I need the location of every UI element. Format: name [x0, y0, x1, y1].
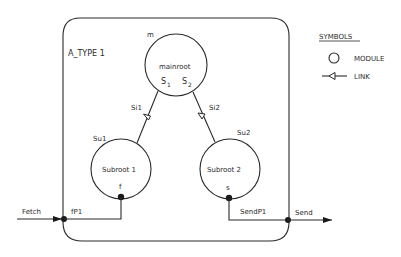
module-mainroot[interactable]: m mainroot S 1 S 2	[145, 31, 207, 96]
module-tag: Su2	[237, 129, 250, 137]
port-label: s	[226, 184, 230, 192]
module-tag: Su1	[93, 135, 106, 143]
module-name: mainroot	[159, 63, 191, 71]
module-symbol-icon	[329, 53, 339, 63]
port-s1: S	[161, 77, 166, 86]
legend-item-label: MODULE	[354, 55, 384, 63]
module-subroot-2[interactable]: Su2 Subroot 2 s	[200, 129, 260, 201]
port-s2-sub: 2	[188, 81, 192, 88]
module-subroot-1[interactable]: Su1 Subroot 1 f	[91, 135, 151, 200]
input-label: Fetch	[22, 208, 41, 216]
legend-item-label: LINK	[354, 73, 370, 81]
module-name: Subroot 1	[102, 166, 136, 174]
module-tag: m	[147, 31, 154, 39]
port-s1-sub: 1	[167, 81, 171, 88]
arrow-right-icon	[323, 217, 332, 223]
arrow-right-icon	[53, 216, 62, 222]
link-si2[interactable]: Si2	[193, 92, 220, 142]
output-label: Send	[295, 209, 313, 217]
legend-title: SYMBOLS	[319, 33, 353, 41]
link-label: Si2	[209, 104, 220, 112]
output-send[interactable]: SendP1 Send	[229, 198, 332, 223]
link-label: Si1	[131, 104, 142, 112]
legend: SYMBOLS MODULE LINK	[319, 33, 384, 81]
port-s2: S	[182, 77, 187, 86]
port-label: f	[119, 183, 122, 191]
port-label: fP1	[71, 208, 82, 216]
port-label: SendP1	[240, 208, 266, 216]
module-diagram: A_TYPE 1 m mainroot S 1 S 2 Si1 Si2 Su1 …	[0, 0, 401, 257]
link-symbol-icon	[329, 73, 335, 80]
link-si1[interactable]: Si1	[131, 91, 158, 143]
module-name: Subroot 2	[207, 166, 241, 174]
type-label: A_TYPE 1	[68, 49, 105, 58]
input-fetch[interactable]: Fetch fP1	[17, 198, 121, 222]
